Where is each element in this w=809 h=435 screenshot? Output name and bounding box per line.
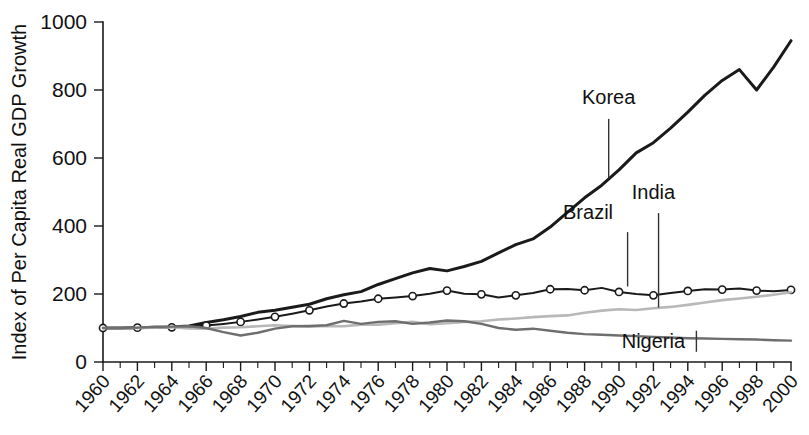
x-axis-ticks: 1960196219641966196819701972197419761978… [70, 362, 802, 416]
y-tick-label: 1000 [40, 10, 87, 33]
series-marker-brazil [547, 286, 554, 293]
x-tick-label: 1982 [448, 371, 492, 416]
x-tick-label: 1996 [689, 371, 733, 416]
series-marker-brazil [409, 292, 416, 299]
x-tick-label: 1960 [70, 371, 114, 416]
series-marker-brazil [340, 300, 347, 307]
x-tick-label: 2000 [758, 371, 802, 416]
series-marker-brazil [581, 287, 588, 294]
x-tick-label: 1968 [208, 371, 252, 416]
x-tick-label: 1990 [586, 371, 630, 416]
series-label-korea: Korea [582, 86, 636, 108]
series-marker-brazil [650, 292, 657, 299]
x-tick-label: 1992 [620, 371, 664, 416]
series-marker-brazil [512, 292, 519, 299]
x-tick-label: 1962 [104, 371, 148, 416]
series-marker-brazil [753, 287, 760, 294]
y-axis-ticks: 02004006008001000 [40, 10, 103, 373]
series-marker-brazil [271, 313, 278, 320]
series-marker-brazil [375, 295, 382, 302]
y-tick-label: 0 [75, 350, 87, 373]
series-marker-brazil [684, 287, 691, 294]
series-marker-brazil [306, 307, 313, 314]
series-marker-brazil [719, 286, 726, 293]
series-label-brazil: Brazil [563, 201, 613, 223]
y-tick-label: 200 [52, 282, 87, 305]
gdp-growth-line-chart: Index of Per Capita Real GDP Growth 0200… [0, 0, 809, 435]
x-tick-label: 1964 [139, 370, 183, 416]
y-tick-label: 600 [52, 146, 87, 169]
series-marker-brazil [237, 318, 244, 325]
x-tick-label: 1998 [724, 371, 768, 416]
y-axis-title: Index of Per Capita Real GDP Growth [8, 24, 30, 360]
x-tick-label: 1980 [414, 371, 458, 416]
x-tick-label: 1978 [380, 371, 424, 416]
x-tick-label: 1966 [173, 371, 217, 416]
x-tick-label: 1972 [276, 371, 320, 416]
x-tick-label: 1986 [517, 371, 561, 416]
chart-axes [103, 22, 791, 362]
x-tick-label: 1984 [483, 370, 527, 416]
series-label-nigeria: Nigeria [622, 330, 686, 352]
x-tick-label: 1970 [242, 371, 286, 416]
x-tick-label: 1976 [345, 371, 389, 416]
series-marker-brazil [443, 287, 450, 294]
x-tick-label: 1994 [655, 370, 699, 416]
y-tick-label: 400 [52, 214, 87, 237]
series-label-india: India [632, 181, 676, 203]
chart-page: Index of Per Capita Real GDP Growth 0200… [0, 0, 809, 435]
x-tick-label: 1974 [311, 370, 355, 416]
y-tick-label: 800 [52, 78, 87, 101]
series-line-korea [103, 41, 791, 328]
y-axis-title-label: Index of Per Capita Real GDP Growth [8, 24, 30, 360]
series-marker-brazil [615, 288, 622, 295]
chart-series-layer [99, 41, 794, 341]
series-marker-brazil [478, 291, 485, 298]
x-tick-label: 1988 [552, 371, 596, 416]
